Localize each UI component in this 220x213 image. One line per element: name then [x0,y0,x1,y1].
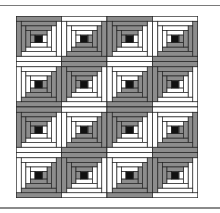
log-strip-bottom [162,184,188,189]
log-strip-bottom [76,42,93,47]
log-strip-left [107,67,112,102]
log-strip-top [167,121,184,126]
center-square [81,126,88,133]
quilt-block [62,62,108,108]
center-square [81,81,88,88]
log-strip-bottom [26,93,52,98]
log-strip-top [67,67,102,72]
log-strip-top [26,162,52,167]
log-strip-top [153,16,199,21]
log-strip-left [16,158,21,193]
log-strip-top [62,153,108,158]
log-strip-right [133,81,138,88]
log-strip-left [121,35,126,42]
log-strip-bottom [67,97,102,102]
log-strip-top [112,67,147,72]
log-strip-right [138,76,143,93]
log-strip-right [147,158,152,193]
log-strip-top [71,162,97,167]
log-strip-top [71,26,97,31]
log-strip-right [97,71,102,97]
log-strip-top [121,76,138,81]
log-strip-left [26,30,31,47]
quilt-block [16,107,62,153]
log-strip-right [93,30,98,47]
log-strip-top [26,117,52,122]
log-strip-bottom [121,179,138,184]
log-strip-bottom [158,97,193,102]
log-strip-bottom [67,143,102,148]
log-strip-right [193,21,198,56]
log-strip-top [62,62,108,67]
log-strip-top [16,153,62,158]
log-strip-left [62,21,67,56]
log-strip-right [102,67,107,102]
log-strip-top [158,112,193,117]
log-strip-bottom [153,56,199,61]
log-strip-bottom [62,102,108,107]
log-strip-top [30,167,47,172]
log-strip-bottom [30,42,47,47]
log-strip-right [133,35,138,42]
quilt-block [16,62,62,108]
log-strip-right [143,71,148,97]
log-strip-right [147,67,152,102]
log-strip-right [102,112,107,147]
log-strip-top [76,167,93,172]
log-strip-right [47,121,52,138]
log-strip-bottom [30,179,47,184]
log-strip-right [42,126,47,133]
log-strip-left [107,112,112,147]
log-strip-top [117,26,143,31]
log-strip-left [26,76,31,93]
log-strip-left [121,81,126,88]
quilt-block [153,62,199,108]
quilt-block [16,153,62,199]
log-strip-right [93,76,98,93]
log-strip-bottom [21,143,56,148]
log-strip-bottom [71,93,97,98]
log-strip-left [158,26,163,52]
center-square [126,35,133,42]
log-strip-left [62,158,67,193]
log-strip-left [167,172,172,179]
log-strip-bottom [117,93,143,98]
log-strip-left [62,67,67,102]
log-strip-bottom [112,188,147,193]
log-strip-bottom [62,147,108,152]
log-strip-top [26,71,52,76]
log-strip-left [30,81,35,88]
log-strip-left [76,126,81,133]
log-strip-left [30,126,35,133]
center-square [35,172,42,179]
log-strip-bottom [117,47,143,52]
log-strip-top [62,16,108,21]
log-strip-right [93,121,98,138]
log-strip-bottom [71,47,97,52]
center-square [172,35,179,42]
quilt-block [107,153,153,199]
log-strip-left [21,117,26,143]
log-strip-top [107,16,153,21]
log-strip-left [112,162,117,188]
log-strip-left [71,30,76,47]
log-strip-right [56,158,61,193]
log-strip-left [67,162,72,188]
log-strip-right [133,126,138,133]
log-strip-top [162,162,188,167]
log-strip-top [158,158,193,163]
log-strip-bottom [167,88,184,93]
log-strip-bottom [62,193,108,198]
log-strip-right [56,67,61,102]
log-strip-right [184,167,189,184]
center-square [35,126,42,133]
log-strip-bottom [26,47,52,52]
log-strip-bottom [21,97,56,102]
log-cabin-quilt [16,16,198,198]
log-strip-left [30,35,35,42]
quilt-block [153,153,199,199]
log-strip-right [188,117,193,143]
log-strip-bottom [26,138,52,143]
log-strip-bottom [30,88,47,93]
log-strip-right [88,172,93,179]
